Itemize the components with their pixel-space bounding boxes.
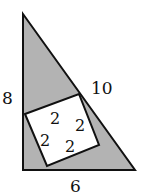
side-label-hypotenuse: 10 xyxy=(91,78,113,98)
square-side-label-left: 2 xyxy=(40,131,50,150)
side-label-vertical: 8 xyxy=(2,88,13,108)
side-label-base: 6 xyxy=(70,176,81,195)
triangle-diagram: 8 10 6 2 2 2 2 xyxy=(0,0,148,195)
square-side-label-right: 2 xyxy=(75,116,85,135)
square-side-label-top: 2 xyxy=(50,109,60,128)
square-side-label-bottom: 2 xyxy=(65,137,75,156)
